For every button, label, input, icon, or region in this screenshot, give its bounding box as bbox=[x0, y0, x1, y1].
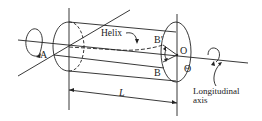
line-ab bbox=[54, 55, 164, 68]
label-b: B bbox=[154, 67, 161, 78]
helix-leader bbox=[126, 33, 137, 42]
dimension-arrow-left bbox=[69, 88, 74, 92]
label-o: O bbox=[180, 45, 187, 56]
torsion-diagram: A Helix B′ B O Θ L Longitudinal axis bbox=[0, 0, 262, 121]
dimension-arrow-right bbox=[172, 100, 177, 104]
label-length: L bbox=[118, 87, 125, 98]
label-a: A bbox=[40, 49, 48, 60]
axis-leader bbox=[214, 64, 220, 86]
helix-leader-arrowhead bbox=[135, 39, 139, 44]
label-theta: Θ bbox=[184, 63, 191, 74]
label-helix: Helix bbox=[101, 28, 122, 38]
left-end-ellipse-front bbox=[53, 22, 69, 71]
label-b-prime: B′ bbox=[154, 34, 163, 45]
diagonal-line bbox=[18, 10, 130, 76]
label-axis: axis bbox=[193, 95, 208, 105]
cylinder-top-edge bbox=[69, 22, 176, 32]
right-torque-arrowhead bbox=[211, 61, 215, 66]
center-point-o bbox=[176, 54, 178, 56]
diagram-canvas: A Helix B′ B O Θ L Longitudinal axis bbox=[0, 0, 262, 121]
longitudinal-axis-line bbox=[18, 40, 248, 63]
angle-arrow-top bbox=[163, 46, 166, 51]
